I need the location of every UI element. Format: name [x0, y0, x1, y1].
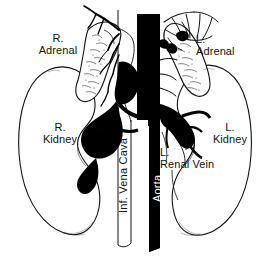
label-right-kidney: R. Kidney — [29, 122, 91, 145]
label-right-adrenal: R. Adrenal — [30, 33, 86, 56]
label-left-adrenal: L. Adrenal — [196, 34, 258, 57]
label-left-renal-vein: L. Renal Vein — [160, 147, 236, 170]
anatomical-illustration: R. Adrenal L. Adrenal R. Kidney L. Kidne… — [0, 0, 271, 260]
label-inferior-vena-cava: Inf. Vena Cava — [118, 138, 129, 213]
label-left-kidney: L. Kidney — [199, 122, 261, 145]
label-aorta: Aorta — [152, 175, 163, 202]
